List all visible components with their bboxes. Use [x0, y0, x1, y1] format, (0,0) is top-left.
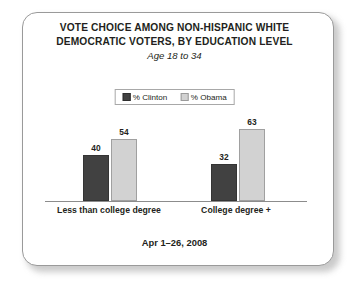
- chart-subtitle: Age 18 to 34: [0, 50, 349, 62]
- legend-swatch-icon-clinton: [122, 93, 130, 101]
- bar-clinton: [83, 155, 109, 201]
- bar-group-college-degree: 32 63: [211, 118, 265, 201]
- bar-item-obama-less-than-college: 54: [111, 127, 137, 201]
- x-axis-line: [45, 201, 307, 202]
- bar-value-label: 54: [119, 127, 128, 137]
- legend-item-clinton: % Clinton: [122, 93, 167, 102]
- bar-item-clinton-less-than-college: 40: [83, 143, 109, 201]
- bar-value-label: 32: [219, 152, 228, 162]
- bar-item-obama-college-degree: 63: [239, 117, 265, 201]
- chart-title-line-2: DEMOCRATIC VOTERS, BY EDUCATION LEVEL: [0, 35, 349, 49]
- bar-obama: [239, 129, 265, 201]
- chart-figure: VOTE CHOICE AMONG NON-HISPANIC WHITE DEM…: [0, 0, 349, 283]
- x-axis-label-college-degree: College degree +: [201, 205, 271, 215]
- chart-footer-date: Apr 1–26, 2008: [0, 237, 349, 248]
- legend-label-clinton: % Clinton: [133, 93, 168, 102]
- legend-swatch-icon-obama: [180, 93, 188, 101]
- x-axis-label-less-than-college: Less than college degree: [57, 205, 161, 215]
- chart-legend: % Clinton % Obama: [114, 89, 235, 105]
- chart-title-line-1: VOTE CHOICE AMONG NON-HISPANIC WHITE: [0, 21, 349, 35]
- legend-item-obama: % Obama: [180, 93, 227, 102]
- bar-item-clinton-college-degree: 32: [211, 152, 237, 201]
- bar-obama: [111, 139, 137, 201]
- title-block: VOTE CHOICE AMONG NON-HISPANIC WHITE DEM…: [0, 21, 349, 62]
- bar-group-less-than-college: 40 54: [83, 118, 137, 201]
- legend-label-obama: % Obama: [191, 93, 227, 102]
- bar-value-label: 40: [91, 143, 100, 153]
- bar-clinton: [211, 164, 237, 201]
- plot-area: 40 54 32 63: [45, 118, 307, 202]
- bar-value-label: 63: [247, 117, 256, 127]
- x-axis-labels: Less than college degree College degree …: [45, 205, 307, 219]
